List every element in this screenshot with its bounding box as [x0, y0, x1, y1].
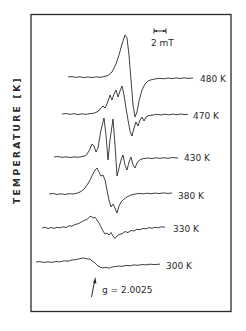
- g-value-arrow-icon: [92, 277, 97, 297]
- trace-470K: [62, 86, 188, 136]
- g-value-annotation: g = 2.0025: [102, 285, 152, 295]
- y-axis-label: TEMPERATURE [K]: [9, 78, 25, 202]
- y-axis-label-text: TEMPERATURE [K]: [12, 76, 22, 204]
- scale-bar: [154, 29, 166, 34]
- trace-label-470K: 470 K: [193, 111, 220, 121]
- trace-480K: [68, 35, 193, 117]
- trace-430K: [54, 118, 178, 176]
- trace-label-380K: 380 K: [178, 191, 205, 201]
- trace-label-430K: 430 K: [184, 153, 211, 163]
- plot-area: 2 mT 480 K 470 K 430 K 380 K 330 K 300 K…: [0, 0, 246, 331]
- scale-bar-label: 2 mT: [151, 38, 174, 48]
- trace-label-300K: 300 K: [166, 261, 193, 271]
- trace-300K: [36, 258, 160, 268]
- trace-330K: [42, 216, 165, 239]
- plot-frame: [31, 15, 231, 312]
- trace-380K: [49, 168, 172, 213]
- trace-label-330K: 330 K: [173, 224, 200, 234]
- epr-spectra-figure: TEMPERATURE [K] 2 mT 480 K 470 K 430 K 3…: [0, 0, 246, 331]
- trace-label-480K: 480 K: [200, 74, 227, 84]
